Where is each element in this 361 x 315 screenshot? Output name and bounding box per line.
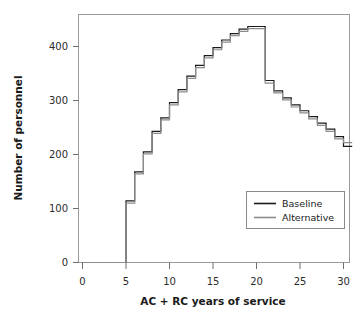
personnel-by-years-of-service-chart: 400 300 200 100 0 0 5 10 15 20 25 30 A [0,0,361,315]
y-tick-label-400: 400 [49,41,68,52]
x-tick-label-15: 15 [207,276,220,287]
chart-legend[interactable]: Baseline Alternative [247,192,345,229]
y-axis-title: Number of personnel [12,75,24,200]
y-tick-label-100: 100 [49,203,68,214]
x-tick-label-5: 5 [123,276,129,287]
y-axis-ticks [73,47,79,263]
x-axis-ticks [83,263,344,270]
y-axis-tick-labels: 400 300 200 100 0 [49,41,68,268]
chart-figure: 400 300 200 100 0 0 5 10 15 20 25 30 A [0,0,361,315]
y-tick-label-200: 200 [49,149,68,160]
legend-label-alternative: Alternative [282,212,334,223]
x-tick-label-30: 30 [337,276,350,287]
y-tick-label-0: 0 [62,257,68,268]
y-tick-label-300: 300 [49,95,68,106]
legend-label-baseline: Baseline [282,198,322,209]
x-tick-label-20: 20 [250,276,263,287]
x-axis-tick-labels: 0 5 10 15 20 25 30 [79,276,350,287]
x-axis-title: AC + RC years of service [140,295,285,307]
x-tick-label-25: 25 [294,276,307,287]
x-tick-label-10: 10 [163,276,176,287]
x-tick-label-0: 0 [79,276,85,287]
